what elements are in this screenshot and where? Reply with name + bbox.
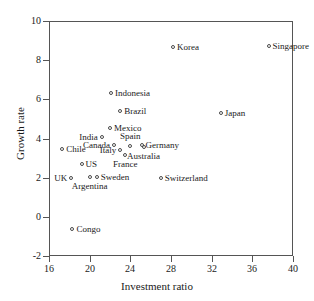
- x-tick-mark: [212, 256, 213, 262]
- data-point-label: UK: [54, 174, 67, 183]
- data-point-label: Sweden: [101, 173, 130, 182]
- data-point-label: US: [86, 160, 98, 169]
- data-point-label: Italy: [100, 146, 117, 155]
- x-tick-mark: [171, 256, 172, 262]
- data-point-label: Indonesia: [115, 89, 150, 98]
- data-point-label: Argentina: [72, 182, 108, 191]
- x-tick-label: 40: [278, 264, 308, 274]
- y-tick-label: 10: [31, 16, 41, 26]
- data-point-marker: [142, 145, 146, 149]
- data-point-marker: [219, 111, 223, 115]
- x-tick-label: 16: [34, 264, 64, 274]
- data-point-marker: [95, 175, 99, 179]
- data-point-marker: [159, 176, 163, 180]
- y-tick-mark: [43, 217, 49, 218]
- data-point-marker: [80, 162, 84, 166]
- data-point-label: Japan: [225, 109, 246, 118]
- y-tick-label: 8: [36, 55, 41, 65]
- x-tick-mark: [252, 256, 253, 262]
- x-tick-label: 32: [197, 264, 227, 274]
- data-point-label: Germany: [146, 141, 180, 150]
- x-axis-title: Investment ratio: [0, 281, 314, 292]
- y-tick-label: 2: [36, 173, 41, 183]
- data-point-marker: [88, 175, 92, 179]
- data-point-label: Switzerland: [165, 174, 208, 183]
- data-point-marker: [100, 135, 104, 139]
- y-tick-label: -2: [33, 251, 41, 261]
- x-tick-mark: [293, 256, 294, 262]
- x-tick-label: 24: [115, 264, 145, 274]
- x-tick-label: 28: [156, 264, 186, 274]
- y-tick-mark: [43, 21, 49, 22]
- data-point-label: Singapore: [273, 42, 310, 51]
- x-tick-mark: [130, 256, 131, 262]
- data-point-marker: [108, 126, 112, 130]
- y-axis-title: Growth rate: [15, 74, 26, 194]
- y-tick-mark: [43, 99, 49, 100]
- x-tick-mark: [49, 256, 50, 262]
- y-tick-label: 6: [36, 94, 41, 104]
- data-point-label: Congo: [76, 225, 100, 234]
- y-tick-mark: [43, 139, 49, 140]
- y-tick-label: 0: [36, 212, 41, 222]
- data-point-label: Chile: [66, 145, 86, 154]
- y-tick-mark: [43, 178, 49, 179]
- x-tick-label: 20: [75, 264, 105, 274]
- data-point-label: Korea: [177, 43, 199, 52]
- x-tick-mark: [90, 256, 91, 262]
- data-point-label: Spain: [120, 132, 141, 141]
- y-tick-label: 4: [36, 134, 41, 144]
- data-point-label: France: [113, 160, 138, 169]
- data-point-label: Brazil: [124, 107, 146, 116]
- y-tick-mark: [43, 60, 49, 61]
- scatter-chart: 1086420-2 16202428323640 KoreaSingaporeI…: [0, 0, 314, 301]
- x-tick-label: 36: [237, 264, 267, 274]
